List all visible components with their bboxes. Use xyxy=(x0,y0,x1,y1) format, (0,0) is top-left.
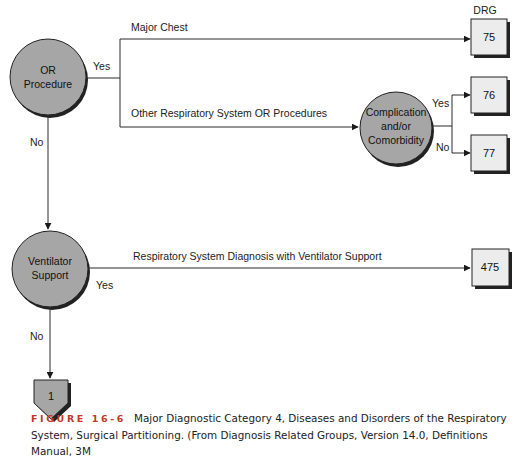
drg-header: DRG xyxy=(473,4,496,16)
complication-line1: Complication xyxy=(366,106,427,118)
drg-77-label: 77 xyxy=(483,147,495,159)
ventilator-line2: Support xyxy=(32,269,69,281)
or-procedure-node: OR Procedure xyxy=(10,39,88,118)
or-procedure-line2: Procedure xyxy=(24,78,73,90)
caption-line1: FIGURE 16-6Major Diagnostic Category 4, … xyxy=(31,410,520,427)
drg-box-475: 475 xyxy=(472,249,512,289)
caption-line2: System, Surgical Partitioning. (From Dia… xyxy=(31,427,520,459)
or-yes-label: Yes xyxy=(93,60,110,72)
complication-node: Complication and/or Comorbidity xyxy=(360,92,434,167)
other-resp-label: Other Respiratory System OR Procedures xyxy=(131,107,327,119)
drg-box-75: 75 xyxy=(471,19,510,58)
connector-label: 1 xyxy=(48,390,54,402)
drg-box-77: 77 xyxy=(471,135,510,174)
drg-475-label: 475 xyxy=(481,261,499,273)
vent-no-label: No xyxy=(30,330,44,342)
resp-vent-label: Respiratory System Diagnosis with Ventil… xyxy=(133,250,382,262)
cc-yes-label: Yes xyxy=(432,97,449,109)
cc-no-label: No xyxy=(436,141,450,153)
ventilator-line1: Ventilator xyxy=(28,255,72,267)
drg-76-label: 76 xyxy=(483,89,495,101)
figure-caption: FIGURE 16-6Major Diagnostic Category 4, … xyxy=(31,410,520,459)
complication-line3: Comorbidity xyxy=(368,134,425,146)
or-no-label: No xyxy=(30,136,44,148)
figure-label: FIGURE 16-6 xyxy=(31,413,126,424)
major-chest-label: Major Chest xyxy=(131,21,188,33)
caption-text1: Major Diagnostic Category 4, Diseases an… xyxy=(134,412,507,424)
vent-yes-label: Yes xyxy=(96,279,113,291)
ventilator-support-node: Ventilator Support xyxy=(12,231,90,310)
drg-box-76: 76 xyxy=(471,77,510,116)
or-procedure-line1: OR xyxy=(40,64,56,76)
drg-75-label: 75 xyxy=(483,31,495,43)
complication-line2: and/or xyxy=(381,120,411,132)
